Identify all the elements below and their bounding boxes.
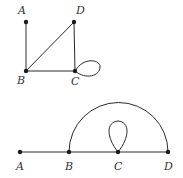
vertex-a (24, 20, 28, 24)
graph-1: A D B C (16, 4, 100, 88)
vertex-a (18, 150, 22, 154)
loop-c (109, 121, 127, 152)
edge-b-d (26, 22, 74, 71)
vertex-d (72, 20, 76, 24)
loop-c (75, 61, 100, 76)
vertex-c (116, 150, 120, 154)
label-d: D (75, 4, 85, 17)
label-c: C (114, 160, 123, 173)
diagram-canvas: A D B C A B C D (0, 0, 183, 178)
label-c: C (71, 75, 80, 88)
label-d: D (163, 160, 173, 173)
vertex-d (166, 150, 170, 154)
arc-b-d (69, 103, 168, 153)
vertex-b (24, 69, 28, 73)
label-b: B (64, 160, 73, 173)
label-a: A (17, 4, 26, 17)
vertex-c (73, 69, 77, 73)
vertex-b (67, 150, 71, 154)
graph-2: A B C D (15, 103, 173, 174)
label-a: A (15, 160, 24, 173)
label-b: B (16, 74, 25, 87)
edge-d-c (74, 22, 75, 71)
